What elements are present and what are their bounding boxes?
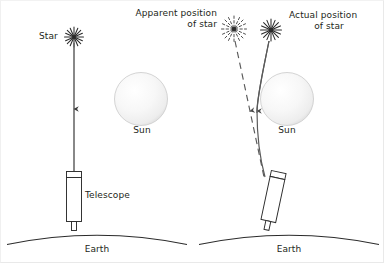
telescope-left: [67, 172, 82, 231]
sun-right: [261, 73, 314, 126]
starlight-bending-svg: [1, 1, 384, 263]
telescope-right: [259, 171, 286, 232]
actual-star-core: [269, 28, 274, 33]
telescope-label: Telescope: [85, 190, 130, 201]
star-label-left: Star: [39, 31, 58, 42]
left-panel-group: [7, 27, 187, 245]
apparent-sightline: [235, 41, 264, 177]
earth-label-right: Earth: [276, 244, 302, 255]
earth-label-left: Earth: [84, 244, 110, 255]
apparent-position-label-line1: Apparent position: [127, 8, 217, 19]
sun-label-right: Sun: [276, 125, 298, 136]
sun-left: [115, 73, 168, 126]
apparent-position-label-line2: of star: [127, 19, 217, 30]
actual-position-label-line2: of star: [289, 21, 369, 32]
sun-label-left: Sun: [131, 125, 153, 136]
actual-position-label-line1: Actual position: [289, 10, 357, 21]
diagram-canvas: Star Telescope Sun Earth Apparent positi…: [0, 0, 384, 263]
apparent-star-core: [232, 27, 236, 31]
